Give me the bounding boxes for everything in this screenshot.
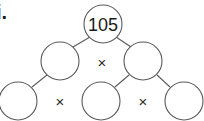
- edge-right-rightleaf: [157, 75, 170, 87]
- edge-right-middleleaf: [115, 75, 129, 87]
- level3-node-right[interactable]: [165, 82, 203, 120]
- edge-root-left: [73, 37, 90, 47]
- empty-circle[interactable]: [124, 42, 162, 80]
- root-value: 105: [88, 15, 118, 35]
- edge-left-leftleaf: [32, 75, 47, 87]
- level3-node-middle[interactable]: [82, 82, 120, 120]
- level3-node-left[interactable]: [0, 82, 37, 120]
- empty-circle[interactable]: [165, 82, 203, 120]
- empty-circle[interactable]: [82, 82, 120, 120]
- empty-circle[interactable]: [0, 82, 37, 120]
- multiply-icon: ×: [139, 93, 148, 110]
- root-node: 105: [84, 5, 122, 43]
- multiply-icon: ×: [56, 93, 65, 110]
- edge-root-right: [116, 37, 131, 47]
- level2-node-left[interactable]: [41, 42, 79, 80]
- multiply-icon: ×: [98, 54, 107, 71]
- level2-node-right[interactable]: [124, 42, 162, 80]
- empty-circle[interactable]: [41, 42, 79, 80]
- factor-tree-diagram: 105 × × ×: [0, 0, 204, 121]
